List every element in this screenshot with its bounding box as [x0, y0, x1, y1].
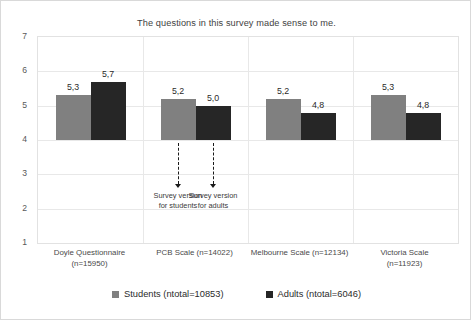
bar-students: [161, 99, 196, 140]
bar-group: 5,25,0: [143, 37, 248, 243]
x-axis-category-label: Doyle Questionnaire(n=15950): [54, 248, 126, 269]
category-label-line: Melbourne Scale (n=12134): [251, 248, 349, 259]
bar-students: [266, 99, 301, 140]
x-axis-category-label: Melbourne Scale (n=12134): [251, 248, 349, 259]
bar-value-label: 5,2: [172, 86, 184, 96]
bar-value-label: 4,8: [312, 100, 324, 110]
x-axis-category-labels: Doyle Questionnaire(n=15950)PCB Scale (n…: [37, 248, 459, 282]
annotation-label: Survey versionfor adults: [189, 191, 238, 212]
y-axis-tick-label: 3: [1, 168, 31, 178]
chart-legend: Students (ntotal=10853)Adults (ntotal=60…: [1, 289, 471, 299]
bar-students: [371, 95, 406, 140]
annotation-arrow-line: [178, 143, 179, 184]
category-label-line: Victoria Scale (n=11923): [377, 248, 432, 269]
category-label-line: (n=15950): [54, 259, 126, 270]
legend-item[interactable]: Adults (ntotal=6046): [266, 289, 361, 299]
y-axis-tick-label: 2: [1, 203, 31, 213]
legend-item[interactable]: Students (ntotal=10853): [112, 289, 224, 299]
bar-adults: [91, 82, 126, 140]
bar-value-label: 4,8: [417, 100, 429, 110]
bar-value-label: 5,3: [67, 82, 79, 92]
bar-students: [56, 95, 91, 140]
y-axis-tick-label: 7: [1, 31, 31, 41]
x-axis-category-label: Victoria Scale (n=11923): [377, 248, 432, 269]
y-axis-tick-label: 4: [1, 134, 31, 144]
bar-group: 5,35,7: [38, 37, 143, 243]
bar-group: 5,24,8: [248, 37, 353, 243]
legend-label: Students (ntotal=10853): [124, 289, 224, 299]
category-label-line: Doyle Questionnaire: [54, 248, 126, 259]
category-label-line: PCB Scale (n=14022): [156, 248, 233, 259]
x-axis-category-label: PCB Scale (n=14022): [156, 248, 233, 259]
bar-value-label: 5,3: [382, 82, 394, 92]
bar-value-label: 5,7: [102, 69, 114, 79]
legend-swatch-icon: [112, 291, 119, 298]
plot-area: 5,35,75,25,05,24,85,34,8Survey versionfo…: [37, 36, 459, 244]
y-axis-tick-label: 5: [1, 100, 31, 110]
y-axis-tick-label: 1: [1, 237, 31, 247]
bar-group: 5,34,8: [353, 37, 458, 243]
chart-figure: The questions in this survey made sense …: [0, 0, 471, 320]
bar-value-label: 5,0: [207, 93, 219, 103]
chart-title: The questions in this survey made sense …: [1, 18, 471, 28]
bar-value-label: 5,2: [277, 86, 289, 96]
bar-adults: [406, 113, 441, 140]
y-axis-tick-label: 6: [1, 65, 31, 75]
annotation-arrow-head: [175, 184, 181, 188]
annotation-arrow-line: [213, 143, 214, 184]
legend-swatch-icon: [266, 291, 273, 298]
bar-adults: [301, 113, 336, 140]
annotation-text-line: for adults: [189, 201, 238, 211]
annotation-text-line: Survey version: [189, 191, 238, 201]
y-axis: 1234567: [1, 36, 31, 244]
annotation-arrow-head: [210, 184, 216, 188]
bar-adults: [196, 106, 231, 140]
legend-label: Adults (ntotal=6046): [278, 289, 361, 299]
